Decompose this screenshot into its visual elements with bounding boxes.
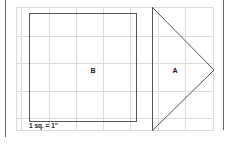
triangle-a-label: A bbox=[172, 67, 177, 74]
diagram-canvas: B A 1 sq. = 1" bbox=[0, 0, 225, 144]
triangle-a bbox=[153, 8, 215, 131]
square-b-label: B bbox=[90, 67, 95, 74]
square-b bbox=[30, 14, 137, 122]
scale-label: 1 sq. = 1" bbox=[29, 122, 58, 130]
grid bbox=[16, 7, 214, 131]
